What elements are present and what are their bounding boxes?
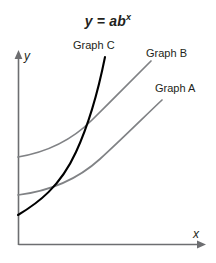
curve-graph-c: [18, 57, 105, 215]
x-axis-label: x: [193, 228, 199, 240]
title-exponent: x: [126, 12, 131, 22]
exponential-functions-figure: y = abx Graph C Graph B Graph A y x: [0, 0, 216, 263]
curve-graph-b: [18, 61, 151, 157]
curve-label-graph-c: Graph C: [73, 39, 115, 51]
curve-label-graph-a: Graph A: [155, 82, 195, 94]
figure-title: y = abx: [0, 12, 216, 29]
arrow-up-icon: [15, 50, 23, 59]
title-base: y = ab: [85, 13, 126, 29]
arrow-right-icon: [197, 241, 206, 249]
curve-label-graph-b: Graph B: [146, 47, 187, 59]
y-axis-label: y: [24, 50, 30, 62]
